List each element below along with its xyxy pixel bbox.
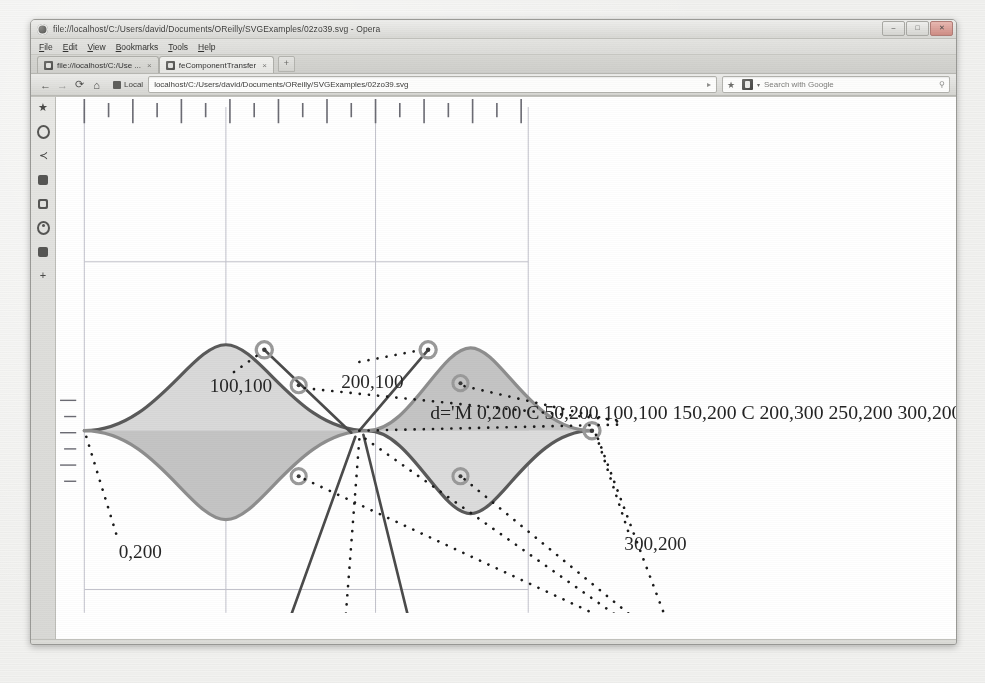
window-title: file://localhost/C:/Users/david/Document… bbox=[53, 24, 380, 34]
menu-label: ools bbox=[172, 42, 188, 52]
tab-fecomponenttransfer[interactable]: feComponentTransfer × bbox=[159, 56, 274, 73]
side-panel-bar: ★ ≺ + bbox=[31, 97, 56, 639]
menu-label: iew bbox=[93, 42, 106, 52]
bezier-curve-illustration: 100,100 200,100 0,200 150,200 300,200 10… bbox=[56, 97, 956, 613]
menu-label: ile bbox=[44, 42, 53, 52]
browser-window: file://localhost/C:/Users/david/Document… bbox=[30, 19, 957, 645]
home-icon[interactable]: ⌂ bbox=[88, 76, 105, 93]
address-bar-value: localhost/C:/Users/david/Documents/OReil… bbox=[154, 80, 408, 89]
chevron-down-icon[interactable]: ▾ bbox=[757, 81, 760, 88]
menu-label: elp bbox=[204, 42, 215, 52]
window-controls: – □ ✕ bbox=[882, 21, 953, 36]
new-tab-button[interactable]: + bbox=[278, 56, 295, 72]
close-button[interactable]: ✕ bbox=[930, 21, 953, 36]
label-100-100: 100,100 bbox=[210, 375, 272, 396]
tab-favicon-icon bbox=[44, 61, 53, 70]
curve-fill-right-lower bbox=[367, 431, 591, 514]
search-icon[interactable]: ⚲ bbox=[939, 80, 945, 89]
menu-item-bookmarks[interactable]: Bookmarks bbox=[116, 42, 159, 52]
curve-fill-left-lower bbox=[84, 431, 367, 520]
tab-close-icon[interactable]: × bbox=[262, 61, 267, 70]
menu-label: ookmarks bbox=[121, 42, 158, 52]
maximize-button[interactable]: □ bbox=[906, 21, 929, 36]
bookmark-star-icon[interactable]: ★ bbox=[727, 80, 735, 90]
opera-logo-icon bbox=[37, 24, 48, 35]
search-input[interactable]: Search with Google bbox=[764, 80, 834, 89]
settings-panel-icon[interactable] bbox=[37, 221, 50, 234]
screenshot-page: file://localhost/C:/Users/david/Document… bbox=[0, 0, 985, 683]
menu-item-edit[interactable]: Edit bbox=[63, 42, 78, 52]
tab-label: feComponentTransfer bbox=[179, 61, 257, 70]
navigation-bar: ← → ⟳ ⌂ Local localhost/C:/Users/david/D… bbox=[31, 74, 956, 96]
notes-panel-icon[interactable] bbox=[37, 197, 50, 210]
security-badge[interactable]: Local bbox=[113, 80, 143, 89]
status-bar bbox=[31, 639, 956, 645]
menu-item-file[interactable]: File bbox=[39, 42, 53, 52]
content-area: ★ ≺ + bbox=[31, 96, 956, 639]
tab-label: file://localhost/C:/Use ... bbox=[57, 61, 141, 70]
search-box[interactable]: ★ ▾ Search with Google ⚲ bbox=[722, 76, 950, 93]
label-0-200: 0,200 bbox=[119, 541, 162, 562]
path-1-d-label: d='M 0,200 C 50,200 100,100 150,200 C 20… bbox=[430, 401, 956, 423]
bookmarks-panel-icon[interactable]: ★ bbox=[37, 101, 50, 114]
ruler-left bbox=[60, 400, 76, 481]
minimize-button[interactable]: – bbox=[882, 21, 905, 36]
menu-label: dit bbox=[68, 42, 77, 52]
tab-favicon-icon bbox=[166, 61, 175, 70]
back-arrow-icon[interactable]: ← bbox=[37, 76, 54, 93]
title-bar: file://localhost/C:/Users/david/Document… bbox=[31, 20, 956, 39]
add-panel-icon[interactable]: + bbox=[37, 269, 50, 282]
history-panel-icon[interactable] bbox=[37, 125, 50, 138]
forward-arrow-icon[interactable]: → bbox=[54, 76, 71, 93]
links-panel-icon[interactable]: ≺ bbox=[37, 149, 50, 162]
security-badge-label: Local bbox=[124, 80, 143, 89]
tab-close-icon[interactable]: × bbox=[147, 61, 152, 70]
svg-document-viewport: 100,100 200,100 0,200 150,200 300,200 10… bbox=[56, 97, 956, 639]
tab-strip: file://localhost/C:/Use ... × feComponen… bbox=[31, 55, 956, 74]
menu-bar: File Edit View Bookmarks Tools Help bbox=[31, 39, 956, 55]
menu-item-view[interactable]: View bbox=[87, 42, 105, 52]
transfers-panel-icon[interactable] bbox=[37, 245, 50, 258]
tab-file-localhost[interactable]: file://localhost/C:/Use ... × bbox=[37, 56, 159, 73]
menu-item-help[interactable]: Help bbox=[198, 42, 215, 52]
label-300-200: 300,200 bbox=[624, 533, 686, 554]
menu-item-tools[interactable]: Tools bbox=[168, 42, 188, 52]
label-200-100: 200,100 bbox=[341, 371, 403, 392]
ruler bbox=[84, 99, 521, 123]
reload-icon[interactable]: ⟳ bbox=[71, 76, 88, 93]
windows-panel-icon[interactable] bbox=[37, 173, 50, 186]
address-bar[interactable]: localhost/C:/Users/david/Documents/OReil… bbox=[148, 76, 717, 93]
go-icon[interactable]: ▸ bbox=[707, 80, 711, 89]
google-icon[interactable] bbox=[742, 79, 753, 90]
lock-icon bbox=[113, 81, 121, 89]
